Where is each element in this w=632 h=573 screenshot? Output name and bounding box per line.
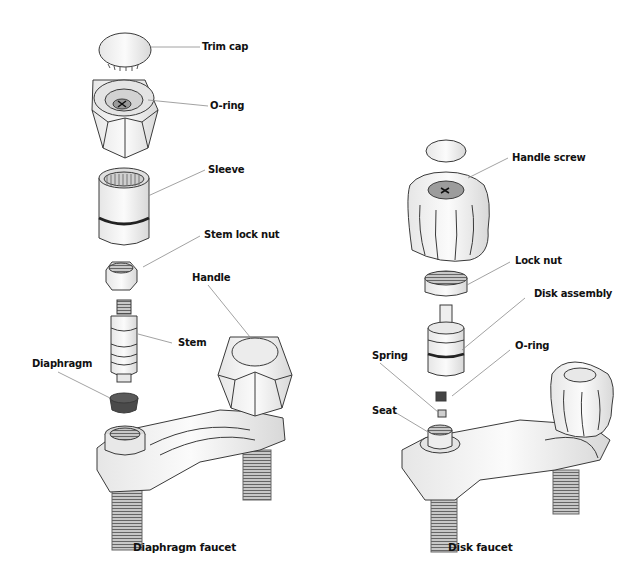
- label-sleeve: Sleeve: [208, 164, 244, 175]
- label-disk-assembly: Disk assembly: [534, 288, 612, 299]
- stem-part: [111, 300, 137, 382]
- diaphragm-faucet-body: [97, 410, 285, 550]
- assembled-handle-part: [218, 337, 292, 416]
- label-lock-nut: Lock nut: [515, 255, 562, 266]
- disk-assembly-part: [428, 305, 464, 376]
- label-seat: Seat: [372, 405, 397, 416]
- assembled-fluted-handle-part: [551, 362, 614, 437]
- diagram-title-disk-faucet: Disk faucet: [448, 541, 513, 553]
- label-spring: Spring: [372, 350, 408, 361]
- disk-trim-cap-part: [426, 140, 466, 162]
- label-trim-cap: Trim cap: [202, 41, 248, 52]
- diagram-title-diaphragm-faucet: Diaphragm faucet: [133, 541, 236, 553]
- hex-handle-part: [92, 80, 158, 158]
- label-handle-screw: Handle screw: [512, 152, 586, 163]
- disk-faucet-body: [402, 420, 610, 552]
- sleeve-part: [99, 168, 149, 245]
- label-o-ring-disk: O-ring: [515, 340, 549, 351]
- disk-lock-nut-part: [425, 271, 467, 296]
- disk-o-ring-part: [436, 392, 446, 401]
- spring-part: [438, 410, 446, 417]
- label-stem: Stem: [178, 337, 206, 348]
- diaphragm-part: [110, 393, 138, 413]
- label-o-ring-diaphragm: O-ring: [210, 100, 244, 111]
- trim-cap-part: [99, 33, 151, 71]
- label-diaphragm: Diaphragm: [32, 358, 92, 369]
- stem-lock-nut-part: [106, 262, 137, 290]
- fluted-handle-part: [408, 172, 489, 261]
- label-stem-lock-nut: Stem lock nut: [204, 229, 279, 240]
- label-handle: Handle: [192, 272, 230, 283]
